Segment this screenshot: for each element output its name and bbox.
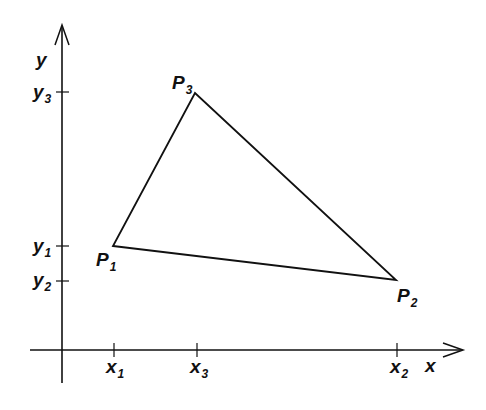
tick-label-x2-main: x (390, 356, 401, 377)
point-label-p3-main: P (172, 72, 185, 93)
point-label-p1-main: P (96, 249, 109, 270)
point-label-p2-sub: 2 (411, 296, 418, 310)
point-label-p1: P1 (96, 250, 116, 269)
tick-label-x1-main: x (106, 356, 117, 377)
tick-label-x3: x3 (190, 357, 208, 376)
tick-label-x2-sub: 2 (402, 367, 409, 381)
tick-label-y1-main: y (33, 235, 44, 256)
point-label-p3-sub: 3 (186, 83, 193, 97)
tick-label-y2-sub: 2 (45, 280, 52, 294)
point-label-p2-main: P (397, 285, 410, 306)
x-axis-label: x (425, 356, 436, 375)
tick-label-y3-main: y (33, 81, 44, 102)
tick-label-x3-sub: 3 (202, 367, 209, 381)
tick-label-y3: y3 (33, 82, 51, 101)
tick-label-y1-sub: 1 (45, 246, 52, 260)
tick-label-x2: x2 (390, 357, 408, 376)
tick-label-y2: y2 (33, 270, 51, 289)
triangle-p1-p2-p3 (113, 93, 396, 280)
tick-label-x1: x1 (106, 357, 124, 376)
point-label-p2: P2 (397, 286, 417, 305)
diagram-canvas (0, 0, 486, 410)
y-axis-label: y (36, 50, 47, 69)
tick-label-y2-main: y (33, 269, 44, 290)
point-label-p3: P3 (172, 73, 192, 92)
point-label-p1-sub: 1 (110, 260, 117, 274)
tick-label-x3-main: x (190, 356, 201, 377)
tick-label-x1-sub: 1 (118, 367, 125, 381)
tick-label-y3-sub: 3 (45, 92, 52, 106)
tick-label-y1: y1 (33, 236, 51, 255)
